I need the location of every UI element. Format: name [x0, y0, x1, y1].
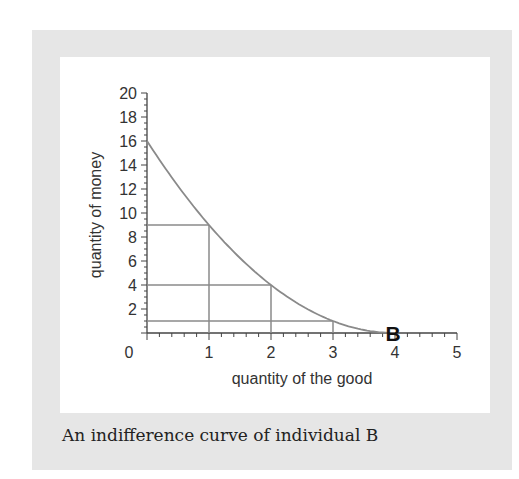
tick-labels: 2468101214161820012345 [119, 85, 461, 361]
y-axis-title: quantity of money [87, 152, 104, 278]
svg-text:10: 10 [119, 205, 137, 222]
guide-lines [147, 225, 333, 333]
point-b-label: B [385, 322, 400, 345]
svg-text:6: 6 [128, 253, 137, 270]
svg-text:4: 4 [128, 277, 137, 294]
svg-text:5: 5 [453, 344, 462, 361]
svg-text:0: 0 [125, 344, 134, 361]
svg-text:12: 12 [119, 181, 137, 198]
svg-text:20: 20 [119, 85, 137, 102]
svg-text:3: 3 [329, 344, 338, 361]
svg-text:14: 14 [119, 157, 137, 174]
axes [141, 93, 457, 340]
x-axis-title: quantity of the good [232, 370, 373, 387]
svg-text:4: 4 [391, 344, 400, 361]
svg-text:8: 8 [128, 229, 137, 246]
svg-text:1: 1 [205, 344, 214, 361]
figure-caption: An indifference curve of individual B [62, 425, 378, 445]
svg-text:2: 2 [267, 344, 276, 361]
svg-text:18: 18 [119, 109, 137, 126]
chart-svg: 2468101214161820012345 quantity of the g… [0, 0, 519, 479]
svg-text:16: 16 [119, 133, 137, 150]
svg-text:2: 2 [128, 301, 137, 318]
